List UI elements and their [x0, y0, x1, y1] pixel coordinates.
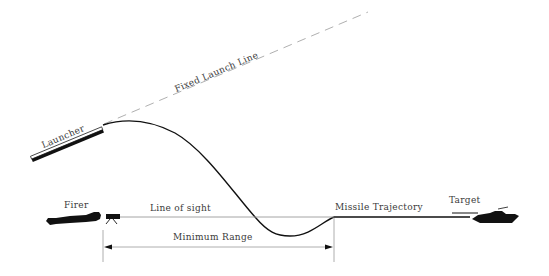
diagram-graphics [0, 0, 549, 276]
missile-trajectory-curve [103, 121, 470, 236]
missile-trajectory-label: Missile Trajectory [335, 202, 423, 212]
arrowhead-left-icon [104, 245, 112, 250]
arrowhead-right-icon [325, 245, 333, 250]
tank-icon [452, 207, 519, 223]
firer-label: Firer [64, 200, 89, 210]
target-label: Target [449, 195, 480, 205]
firer-icon [46, 212, 120, 225]
minimum-range-label: Minimum Range [173, 232, 253, 242]
line-of-sight-label: Line of sight [150, 203, 211, 213]
missile-trajectory-diagram: Launcher Fixed Launch Line Firer Line of… [0, 0, 549, 276]
